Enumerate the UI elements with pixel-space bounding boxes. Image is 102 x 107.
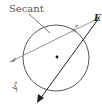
circle <box>23 25 89 91</box>
angle-x-label: x° <box>70 23 82 35</box>
secant-label: Secant <box>9 3 44 14</box>
center-dot <box>56 56 59 59</box>
secant-leader-line <box>29 14 50 33</box>
angle-y-label: y° <box>9 80 22 93</box>
second-secant-line <box>40 18 99 99</box>
secant-arrow-icon <box>9 57 16 63</box>
point-e-label: E <box>93 13 101 23</box>
secant-diagram: Secant E x° y° <box>0 0 102 107</box>
secant-line <box>12 18 99 61</box>
